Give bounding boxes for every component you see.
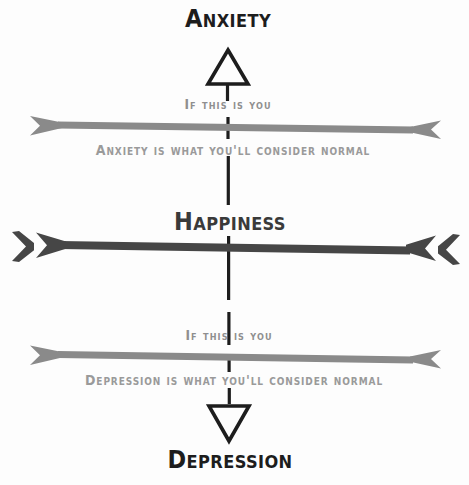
happiness-title: Happiness xyxy=(174,207,286,236)
anxiety-scale-arrow xyxy=(30,116,441,139)
depression-scale-arrow xyxy=(30,346,441,369)
depression-normal-caption: Depression is what you'll consider norma… xyxy=(85,372,383,388)
triangle-down-outline-icon xyxy=(209,406,249,441)
depression-title: Depression xyxy=(168,445,293,474)
anxiety-normal-caption: Anxiety is what you'll consider normal xyxy=(96,142,370,158)
happiness-scale-arrow xyxy=(12,231,460,265)
diagram-canvas: Anxiety If this is you Anxiety is what y… xyxy=(0,0,469,485)
anxiety-if-this-is-you-caption: If this is you xyxy=(184,96,271,112)
anxiety-title: Anxiety xyxy=(185,4,271,33)
depression-if-this-is-you-caption: If this is you xyxy=(185,327,272,343)
triangle-up-outline-icon xyxy=(208,50,248,84)
diagram-graphics xyxy=(0,0,469,485)
